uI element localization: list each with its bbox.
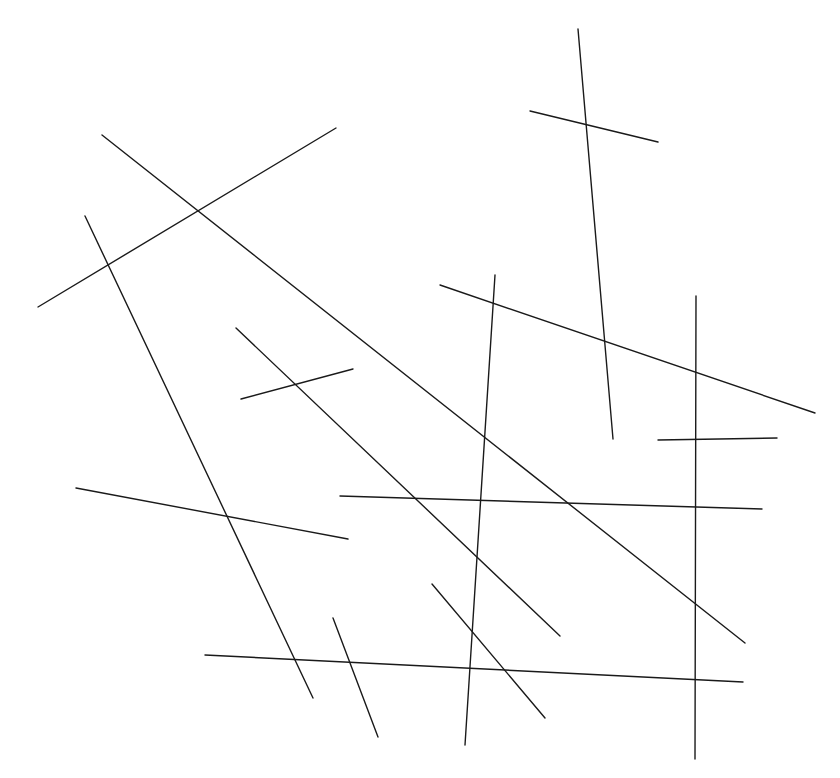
line-segment [236,328,560,636]
line-segment [432,584,545,718]
line-segment [340,496,762,509]
line-segment [530,111,658,142]
line-segment [76,488,348,539]
line-segment [85,216,313,698]
line-segments-canvas [0,0,840,778]
line-segment [465,275,495,745]
line-segment [38,128,336,307]
line-segment [658,438,777,440]
line-segment [440,285,815,413]
line-segment [205,655,743,682]
line-segment [578,29,613,439]
line-segment [695,296,696,759]
line-segment [333,618,378,737]
line-segment [241,369,353,399]
